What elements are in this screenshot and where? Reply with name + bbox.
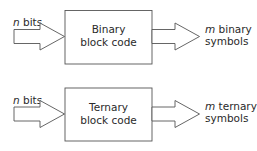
ternary-block-group: n bits Ternary block code m ternary symb…: [13, 88, 257, 141]
binary-input-label: n bits: [13, 16, 42, 28]
binary-block-title-line2: block code: [80, 36, 137, 48]
binary-output-label-line2: symbols: [205, 35, 248, 47]
ternary-block-title-line2: block code: [80, 114, 137, 126]
ternary-input-label: n bits: [13, 94, 42, 106]
binary-block-title-line1: Binary: [92, 23, 126, 35]
binary-output-arrow: [152, 23, 200, 50]
ternary-block-title-line1: Ternary: [88, 101, 128, 113]
binary-block-group: n bits Binary block code m binary symbol…: [13, 11, 252, 65]
ternary-output-arrow: [152, 101, 200, 128]
binary-output-label-line1: m binary: [205, 23, 252, 35]
ternary-output-label-line2: symbols: [205, 112, 248, 124]
block-code-diagram: n bits Binary block code m binary symbol…: [0, 0, 257, 151]
ternary-output-label-line1: m ternary: [205, 100, 257, 112]
